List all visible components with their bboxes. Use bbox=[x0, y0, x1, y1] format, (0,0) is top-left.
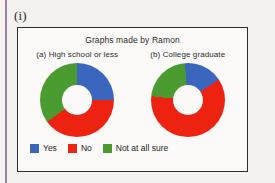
item-label: (i) bbox=[14, 8, 27, 24]
legend-swatch-no bbox=[68, 144, 77, 153]
chart-block-b: (b) College graduate bbox=[134, 50, 242, 137]
legend-swatch-yes bbox=[30, 144, 39, 153]
figure-box: Graphs made by Ramon (a) High school or … bbox=[17, 27, 248, 172]
chart-caption-b: (b) College graduate bbox=[150, 50, 225, 59]
legend-label-yes: Yes bbox=[43, 143, 57, 153]
legend-label-no: No bbox=[81, 143, 92, 153]
chart-legend: Yes No Not at all sure bbox=[18, 143, 247, 153]
charts-row: (a) High school or less (b) College grad… bbox=[18, 50, 247, 137]
donut-hub-a bbox=[62, 85, 92, 115]
figure-title: Graphs made by Ramon bbox=[18, 35, 247, 45]
legend-label-not-at-all-sure: Not at all sure bbox=[116, 143, 168, 153]
legend-item-yes: Yes bbox=[30, 143, 57, 153]
donut-chart-b bbox=[151, 63, 225, 137]
legend-swatch-not-at-all-sure bbox=[103, 144, 112, 153]
legend-item-not-at-all-sure: Not at all sure bbox=[103, 143, 168, 153]
page-left-rule bbox=[5, 0, 7, 183]
legend-item-no: No bbox=[68, 143, 92, 153]
chart-caption-a: (a) High school or less bbox=[36, 50, 118, 59]
donut-chart-a bbox=[40, 63, 114, 137]
donut-hub-b bbox=[173, 85, 203, 115]
chart-block-a: (a) High school or less bbox=[23, 50, 131, 137]
